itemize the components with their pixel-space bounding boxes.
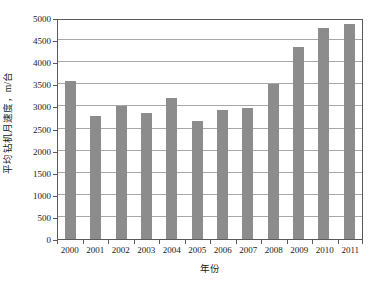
- bar-slot: [185, 20, 210, 239]
- bars-group: [58, 20, 362, 239]
- bar: [242, 108, 253, 239]
- bar-slot: [134, 20, 159, 239]
- x-axis-tick-label: 2007: [236, 245, 262, 259]
- x-axis-title-text: 年份: [200, 264, 220, 274]
- x-axis-tick-labels: 2000200120022003200420052006200720082009…: [57, 245, 363, 259]
- x-axis-tick-mark: [210, 240, 211, 244]
- bar-slot: [261, 20, 286, 239]
- bar-slot: [235, 20, 260, 239]
- x-axis-title: 年份: [57, 261, 363, 275]
- bar: [318, 28, 329, 239]
- bar-slot: [58, 20, 83, 239]
- x-axis-tick-mark: [312, 240, 313, 244]
- x-axis-tick-label: 2006: [210, 245, 236, 259]
- bar: [116, 106, 127, 239]
- x-axis-tick-label: 2008: [261, 245, 287, 259]
- x-axis-tick-label: 2003: [134, 245, 160, 259]
- x-axis-tick-mark: [185, 240, 186, 244]
- x-axis-tick-label: 2000: [57, 245, 83, 259]
- x-axis-tick-label: 2010: [312, 245, 338, 259]
- bar-slot: [83, 20, 108, 239]
- x-axis-tick-label: 2011: [338, 245, 364, 259]
- x-axis-tick-mark: [159, 240, 160, 244]
- bar: [217, 110, 228, 239]
- y-axis-title-text: 平均钻机月速度，m/台: [4, 71, 14, 173]
- x-axis-tick-mark: [236, 240, 237, 244]
- x-axis-tick-label: 2009: [287, 245, 313, 259]
- bar: [344, 24, 355, 239]
- bar: [141, 113, 152, 239]
- bar-slot: [109, 20, 134, 239]
- bar-slot: [286, 20, 311, 239]
- y-axis-title: 平均钻机月速度，m/台: [0, 0, 18, 245]
- x-axis-tick-mark: [83, 240, 84, 244]
- bar-slot: [311, 20, 336, 239]
- bar: [65, 81, 76, 239]
- bar: [90, 116, 101, 239]
- bar-chart-figure: 平均钻机月速度，m/台 0500100015002000250030003500…: [0, 0, 373, 281]
- x-axis-tick-mark: [338, 240, 339, 244]
- bar: [293, 47, 304, 239]
- x-axis-tick-mark: [362, 240, 363, 244]
- bar-slot: [159, 20, 184, 239]
- bar-slot: [210, 20, 235, 239]
- x-axis-tick-mark: [134, 240, 135, 244]
- x-axis-tick-mark: [108, 240, 109, 244]
- x-axis-tick-mark: [57, 240, 58, 244]
- plot-area: [57, 19, 363, 240]
- bar: [192, 121, 203, 239]
- bar: [166, 98, 177, 239]
- x-axis-tick-label: 2002: [108, 245, 134, 259]
- x-axis-tick-label: 2001: [83, 245, 109, 259]
- x-axis-tick-mark: [261, 240, 262, 244]
- x-axis-tick-mark: [287, 240, 288, 244]
- bar: [268, 84, 279, 239]
- x-axis-tick-label: 2004: [159, 245, 185, 259]
- x-axis-tick-label: 2005: [185, 245, 211, 259]
- bar-slot: [337, 20, 362, 239]
